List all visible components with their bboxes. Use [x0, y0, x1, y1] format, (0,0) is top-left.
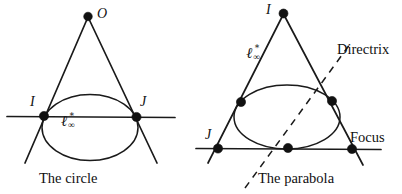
right-label-directrix: Directrix	[337, 42, 389, 57]
right-point-J	[213, 144, 222, 153]
right-ell-superscript-star: ∗	[254, 42, 260, 51]
left-ell-base: ℓ	[61, 112, 67, 130]
right-point-focus	[347, 144, 356, 153]
left-point-I	[39, 111, 48, 120]
right-point-I	[279, 9, 288, 18]
right-directrix-line[interactable]	[245, 44, 350, 188]
left-label-J: J	[140, 95, 146, 109]
left-caption-the-circle: The circle	[39, 171, 97, 186]
right-label-focus: Focus	[350, 130, 385, 145]
left-tangent-line-OJ	[88, 17, 157, 163]
left-line-at-infinity	[7, 117, 175, 118]
left-ell-superscript-star: ∗	[69, 110, 75, 119]
right-ell-base: ℓ	[246, 44, 252, 62]
right-tangent-line-IJ	[208, 14, 284, 163]
right-label-I: I	[266, 3, 271, 17]
right-tangency-point-bottom	[283, 143, 292, 152]
left-diagram-circle	[7, 12, 175, 163]
left-label-O: O	[97, 7, 107, 21]
right-diagram-parabola	[196, 9, 381, 188]
left-ell-subscript-infinity: ∞	[68, 121, 75, 131]
figure-root: O I J ℓ ∗ ∞ The circle I J ℓ ∗ ∞ Directr…	[0, 0, 402, 194]
left-point-O	[84, 12, 93, 21]
right-conic-ellipse	[234, 85, 340, 149]
left-label-line-at-infinity: ℓ ∗ ∞	[61, 114, 67, 129]
left-label-I: I	[30, 95, 35, 109]
left-conic-circle	[42, 95, 138, 161]
right-tangency-point-left	[236, 97, 245, 106]
right-ell-subscript-infinity: ∞	[253, 53, 260, 63]
right-label-line-at-infinity: ℓ ∗ ∞	[246, 46, 252, 61]
right-tangency-point-right	[327, 96, 336, 105]
left-point-J	[132, 112, 141, 121]
figure-canvas	[0, 0, 402, 194]
left-tangent-line-OI	[25, 17, 88, 163]
right-caption-the-parabola: The parabola	[258, 171, 334, 186]
right-label-J: J	[205, 128, 211, 142]
